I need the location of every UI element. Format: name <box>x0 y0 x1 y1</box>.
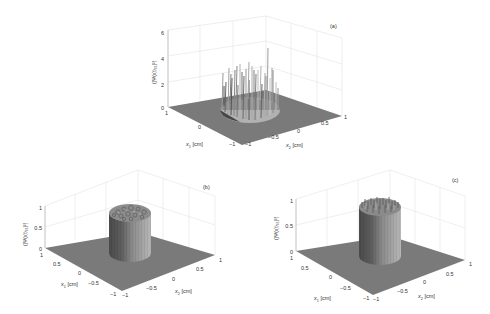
svg-text:−0.5: −0.5 <box>268 134 279 140</box>
panel-b-cylinder <box>109 204 151 262</box>
panel-b-x2-label: x2 [cm] <box>174 288 192 296</box>
panel-c-z-ticks: 1 0.5 0 <box>285 198 293 255</box>
svg-text:0: 0 <box>198 124 201 130</box>
panel-b-x1-label: x1 [cm] <box>60 281 78 289</box>
svg-text:0: 0 <box>161 105 164 111</box>
panel-a-z-label: (|Ψ(x)⟩₀₁|²) <box>151 60 157 84</box>
panel-b-label: (b) <box>203 184 210 190</box>
svg-text:−0.5: −0.5 <box>397 288 408 294</box>
panel-c-cylinder <box>359 197 401 265</box>
svg-text:0.5: 0.5 <box>301 265 309 271</box>
svg-text:0: 0 <box>297 128 300 134</box>
panel-a-x1-label: x1 [cm] <box>185 141 203 149</box>
panel-c-x2-label: x2 [cm] <box>417 293 435 301</box>
svg-text:−0.5: −0.5 <box>88 280 99 286</box>
svg-text:2: 2 <box>161 82 164 88</box>
svg-text:0.5: 0.5 <box>34 225 42 231</box>
svg-text:1: 1 <box>469 261 472 267</box>
panel-b: 1 0.5 0 (|Ψ(x)⟩₀₁|²) 1 0.5 0 −0.5 −1 x1 … <box>22 170 222 298</box>
svg-text:−0.5: −0.5 <box>340 285 351 291</box>
svg-text:0.5: 0.5 <box>53 261 61 267</box>
svg-text:0.5: 0.5 <box>196 266 204 272</box>
svg-text:−1: −1 <box>373 296 379 302</box>
svg-text:−0.5: −0.5 <box>146 285 157 291</box>
svg-text:1: 1 <box>40 252 43 258</box>
svg-text:−1: −1 <box>363 295 369 301</box>
panel-c-label: (c) <box>452 177 459 183</box>
svg-text:−1: −1 <box>122 292 128 298</box>
panel-a: 6 4 2 0 (|Ψ(x)⟩₀₁|²) 1 0 −1 x1 [cm] −1 −… <box>151 16 347 150</box>
svg-text:1: 1 <box>290 255 293 261</box>
figure: 6 4 2 0 (|Ψ(x)⟩₀₁|²) 1 0 −1 x1 [cm] −1 −… <box>0 0 490 314</box>
panel-c-x1-label: x1 [cm] <box>313 295 331 303</box>
svg-text:−1: −1 <box>110 291 116 297</box>
panel-a-z-ticks: 6 4 2 0 <box>161 30 164 111</box>
svg-text:0.5: 0.5 <box>321 120 329 126</box>
panel-c: 1 0.5 0 (|Ψ(x)⟩₀₁|²) 1 0.5 0 −0.5 −1 x1 … <box>273 170 472 303</box>
svg-text:0: 0 <box>172 276 175 282</box>
svg-text:0: 0 <box>78 270 81 276</box>
svg-text:0.5: 0.5 <box>285 223 293 229</box>
svg-text:1: 1 <box>219 257 222 263</box>
svg-text:0: 0 <box>423 279 426 285</box>
svg-text:0.5: 0.5 <box>446 271 454 277</box>
panel-a-label: (a) <box>330 23 337 29</box>
svg-text:−1: −1 <box>229 141 235 147</box>
svg-text:1: 1 <box>344 114 347 120</box>
svg-text:6: 6 <box>161 30 164 36</box>
svg-text:1: 1 <box>165 110 168 116</box>
svg-text:−1: −1 <box>245 141 251 147</box>
panel-b-z-ticks: 1 0.5 0 <box>34 205 42 252</box>
panel-a-x2-label: x2 [cm] <box>285 142 303 150</box>
svg-text:0: 0 <box>329 274 332 280</box>
panel-b-z-label: (|Ψ(x)⟩₀₁|²) <box>22 222 28 246</box>
svg-text:1: 1 <box>290 198 293 204</box>
svg-text:4: 4 <box>161 56 164 62</box>
svg-text:1: 1 <box>39 205 42 211</box>
panel-c-z-label: (|Ψ(x)⟩₀₁|²) <box>273 216 279 240</box>
